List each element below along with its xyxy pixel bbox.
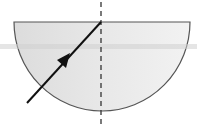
diagram (0, 0, 197, 129)
semicircular-block (14, 22, 190, 111)
refraction-diagram (0, 0, 197, 129)
scan-artifact-band (0, 44, 197, 49)
